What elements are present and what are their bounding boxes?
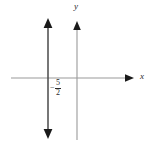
x-intercept-label: − 5 2 xyxy=(50,79,61,97)
fraction-denominator: 2 xyxy=(55,89,61,98)
x-axis-label: x xyxy=(140,72,144,81)
fraction-numerator: 5 xyxy=(55,79,61,88)
intercept-minus-sign: − xyxy=(50,84,55,92)
y-axis-label: y xyxy=(74,2,78,11)
intercept-fraction: 5 2 xyxy=(55,79,61,97)
graph-figure: y x − 5 2 xyxy=(0,0,151,147)
y-axis-arrowhead-icon xyxy=(73,21,81,30)
graph-line-up-arrowhead-icon xyxy=(44,18,53,28)
coordinate-plane-svg xyxy=(0,0,151,147)
graph-line-down-arrowhead-icon xyxy=(44,129,53,139)
x-axis-arrowhead-icon xyxy=(125,74,134,82)
